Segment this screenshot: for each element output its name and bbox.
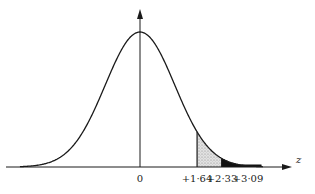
y-axis-arrow-icon [137,9,143,19]
x-axis-label: z [295,154,302,165]
normal-curve [20,32,263,167]
normal-distribution-chart: z 0 +1·64 +2·33 +3·09 [0,0,315,194]
tick-label-3-09: +3·09 [233,173,264,184]
tick-label-0: 0 [137,173,143,184]
x-axis-arrow-icon [282,164,292,170]
